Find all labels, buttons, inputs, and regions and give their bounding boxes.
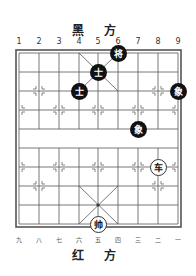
- black-elephant-piece[interactable]: 象: [130, 121, 147, 138]
- black-elephant-piece[interactable]: 象: [170, 83, 187, 100]
- black-advisor-piece[interactable]: 士: [90, 64, 107, 81]
- black-general-piece[interactable]: 将: [110, 45, 127, 62]
- red-chariot-piece[interactable]: 车: [150, 159, 167, 176]
- xiangqi-board[interactable]: [0, 0, 196, 276]
- red-general-piece[interactable]: 帅: [90, 216, 107, 233]
- black-advisor-piece[interactable]: 士: [71, 83, 88, 100]
